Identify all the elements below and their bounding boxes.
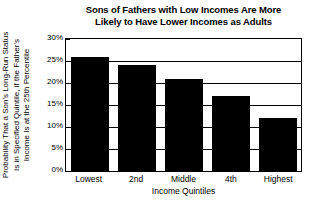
bar-4th bbox=[212, 96, 250, 171]
y-axis-title-line-2: Is in Specified Quintile, if the Father'… bbox=[12, 39, 23, 171]
x-axis-tick-label: Highest bbox=[259, 174, 297, 186]
bar-middle bbox=[165, 79, 203, 171]
x-axis-tick-label: 4th bbox=[212, 174, 250, 186]
y-axis-tick-label: 5% bbox=[35, 144, 63, 152]
y-axis-tick-labels: 30%25%20%15%10%5%0% bbox=[33, 38, 63, 172]
bar-highest bbox=[259, 118, 297, 171]
y-axis-tick-label: 15% bbox=[35, 100, 63, 108]
y-axis-title-line-1: Probability That a Son's Long-Run Status bbox=[1, 32, 12, 178]
plot-area bbox=[65, 38, 302, 172]
x-axis-tick-labels: Lowest2ndMiddle4thHighest bbox=[65, 174, 302, 186]
x-axis-tick-label: Lowest bbox=[70, 174, 108, 186]
y-axis-tick-label: 30% bbox=[35, 34, 63, 42]
x-axis-tick-label: 2nd bbox=[117, 174, 155, 186]
y-axis-tick-label: 25% bbox=[35, 56, 63, 64]
bar-lowest bbox=[71, 57, 109, 171]
chart-title-line-2: Likely to Have Lower Incomes as Adults bbox=[56, 16, 311, 28]
chart-title-line-1: Sons of Fathers with Low Incomes Are Mor… bbox=[56, 4, 311, 16]
bar-series bbox=[66, 39, 301, 171]
y-axis-tick-mark bbox=[66, 171, 70, 172]
x-axis-tick-label: Middle bbox=[164, 174, 202, 186]
x-axis-title: Income Quintiles bbox=[65, 186, 302, 196]
y-axis-title: Probability That a Son's Long-Run Status… bbox=[0, 38, 34, 172]
y-axis-tick-label: 0% bbox=[35, 166, 63, 174]
y-axis-tick-label: 10% bbox=[35, 122, 63, 130]
y-axis-tick-label: 20% bbox=[35, 78, 63, 86]
chart-title: Sons of Fathers with Low Incomes Are Mor… bbox=[56, 4, 311, 28]
bar-chart: Sons of Fathers with Low Incomes Are Mor… bbox=[0, 0, 317, 219]
y-axis-title-line-3: Income Is at the 25th Percentile bbox=[22, 49, 33, 162]
bar-2nd bbox=[118, 65, 156, 171]
